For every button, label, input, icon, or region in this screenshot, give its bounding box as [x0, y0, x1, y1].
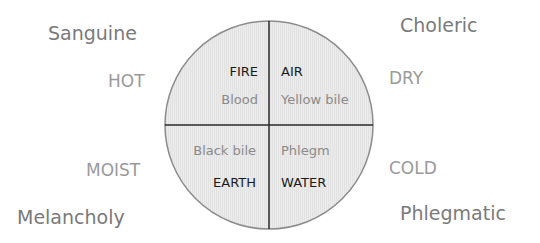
element-fire: FIRE [229, 64, 258, 79]
humors-diagram: FIRE Blood AIR Yellow bile Black bile EA… [0, 0, 540, 243]
element-water: WATER [281, 175, 326, 190]
element-air: AIR [281, 64, 303, 79]
humor-blood: Blood [221, 92, 258, 107]
humor-yellow-bile: Yellow bile [280, 92, 349, 107]
element-earth: EARTH [213, 175, 256, 190]
humor-black-bile: Black bile [193, 143, 256, 158]
humor-phlegm: Phlegm [281, 143, 330, 158]
